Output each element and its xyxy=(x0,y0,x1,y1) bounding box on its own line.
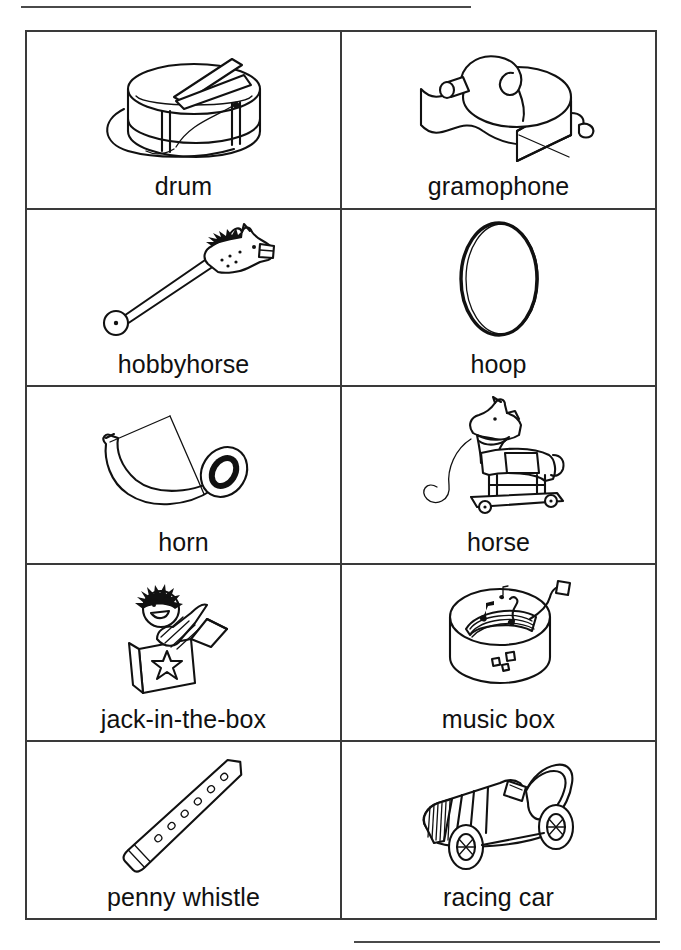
picture-word-label: music box xyxy=(442,706,555,734)
picture-word-cell-drum[interactable]: drum xyxy=(27,32,342,208)
picture-word-cell-jack-in-the-box[interactable]: jack-in-the-box xyxy=(27,565,342,741)
bottom-rule xyxy=(354,941,660,943)
jack-in-the-box-icon xyxy=(27,565,340,706)
picture-word-label: hobbyhorse xyxy=(118,351,250,379)
picture-word-cell-racing-car[interactable]: racing car xyxy=(342,742,655,918)
picture-word-label: penny whistle xyxy=(107,884,260,912)
penny-whistle-icon xyxy=(27,742,340,883)
picture-word-label: hoop xyxy=(470,351,526,379)
picture-word-cell-penny-whistle[interactable]: penny whistle xyxy=(27,742,342,918)
picture-word-label: gramophone xyxy=(428,173,569,201)
table-row: penny whistle xyxy=(27,742,655,918)
picture-word-label: racing car xyxy=(443,884,554,912)
picture-word-cell-hoop[interactable]: hoop xyxy=(342,210,655,386)
worksheet-page: drum xyxy=(0,0,681,950)
racing-car-icon xyxy=(342,742,655,883)
table-row: drum xyxy=(27,32,655,210)
horse-icon xyxy=(342,387,655,528)
picture-word-label: jack-in-the-box xyxy=(101,706,266,734)
picture-word-label: drum xyxy=(155,173,212,201)
drum-icon xyxy=(27,32,340,173)
top-rule xyxy=(21,6,471,8)
horn-icon xyxy=(27,387,340,528)
picture-word-cell-hobbyhorse[interactable]: hobbyhorse xyxy=(27,210,342,386)
gramophone-icon xyxy=(342,32,655,173)
picture-word-cell-gramophone[interactable]: gramophone xyxy=(342,32,655,208)
picture-word-grid: drum xyxy=(25,30,657,920)
hoop-icon xyxy=(342,210,655,351)
table-row: hobbyhorse hoop xyxy=(27,210,655,388)
hobbyhorse-icon xyxy=(27,210,340,351)
picture-word-cell-horse[interactable]: horse xyxy=(342,387,655,563)
picture-word-cell-horn[interactable]: horn xyxy=(27,387,342,563)
table-row: jack-in-the-box xyxy=(27,565,655,743)
table-row: horn xyxy=(27,387,655,565)
picture-word-cell-music-box[interactable]: music box xyxy=(342,565,655,741)
music-box-icon xyxy=(342,565,655,706)
picture-word-label: horse xyxy=(467,529,530,557)
picture-word-label: horn xyxy=(158,529,208,557)
